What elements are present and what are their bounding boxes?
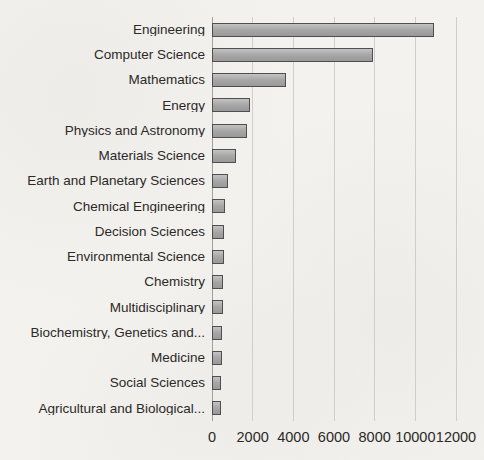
chart-row: Energy: [0, 93, 484, 118]
bar: [212, 73, 286, 87]
x-tick-label: 0: [208, 430, 216, 445]
bar-track: [212, 295, 456, 320]
bar-track: [212, 68, 456, 93]
bar: [212, 225, 224, 239]
bar: [212, 199, 225, 213]
bar-track: [212, 270, 456, 295]
chart-row: Environmental Science: [0, 244, 484, 269]
category-label: Mathematics: [0, 73, 212, 87]
bar-track: [212, 118, 456, 143]
chart-row: Materials Science: [0, 143, 484, 168]
category-label: Earth and Planetary Sciences: [0, 174, 212, 188]
bar-track: [212, 219, 456, 244]
x-tick-label: 12000: [436, 430, 476, 445]
x-tick-label: 10000: [395, 430, 435, 445]
bar-track: [212, 194, 456, 219]
category-label: Engineering: [0, 23, 212, 37]
bar: [212, 48, 373, 62]
bar-track: [212, 169, 456, 194]
chart-row: Social Sciences: [0, 371, 484, 396]
category-label: Energy: [0, 99, 212, 113]
chart-row: Multidisciplinary: [0, 295, 484, 320]
chart-row: Decision Sciences: [0, 219, 484, 244]
chart-row: Earth and Planetary Sciences: [0, 169, 484, 194]
bar: [212, 376, 221, 390]
category-label: Medicine: [0, 351, 212, 365]
chart-row: Engineering: [0, 17, 484, 42]
category-label: Decision Sciences: [0, 225, 212, 239]
bar-chart: EngineeringComputer ScienceMathematicsEn…: [0, 0, 484, 460]
x-axis: 020004000600080001000012000: [212, 430, 456, 450]
bar: [212, 401, 221, 415]
chart-row: Physics and Astronomy: [0, 118, 484, 143]
chart-row: Agricultural and Biological...: [0, 396, 484, 421]
category-label: Social Sciences: [0, 376, 212, 390]
x-tick-label: 2000: [237, 430, 269, 445]
category-label: Agricultural and Biological...: [0, 402, 212, 416]
bar: [212, 124, 247, 138]
bar-track: [212, 371, 456, 396]
bar-track: [212, 320, 456, 345]
bar-track: [212, 244, 456, 269]
category-label: Chemical Engineering: [0, 200, 212, 214]
chart-row: Biochemistry, Genetics and...: [0, 320, 484, 345]
bar: [212, 174, 228, 188]
bar-track: [212, 396, 456, 421]
chart-row: Chemistry: [0, 270, 484, 295]
chart-row: Mathematics: [0, 68, 484, 93]
category-label: Computer Science: [0, 48, 212, 62]
bar-track: [212, 17, 456, 42]
x-tick-label: 6000: [318, 430, 350, 445]
category-label: Multidisciplinary: [0, 301, 212, 315]
category-label: Physics and Astronomy: [0, 124, 212, 138]
bar: [212, 351, 222, 365]
x-tick-label: 8000: [359, 430, 391, 445]
chart-rows: EngineeringComputer ScienceMathematicsEn…: [0, 17, 484, 421]
bar-track: [212, 143, 456, 168]
bar: [212, 300, 223, 314]
chart-row: Medicine: [0, 345, 484, 370]
bar-track: [212, 42, 456, 67]
bar: [212, 98, 250, 112]
category-label: Biochemistry, Genetics and...: [0, 326, 212, 340]
x-tick-label: 4000: [277, 430, 309, 445]
bar: [212, 23, 434, 37]
category-label: Materials Science: [0, 149, 212, 163]
bar: [212, 275, 223, 289]
category-label: Environmental Science: [0, 250, 212, 264]
bar-track: [212, 345, 456, 370]
chart-row: Chemical Engineering: [0, 194, 484, 219]
bar: [212, 250, 224, 264]
chart-row: Computer Science: [0, 42, 484, 67]
bar: [212, 326, 222, 340]
bar-track: [212, 93, 456, 118]
category-label: Chemistry: [0, 275, 212, 289]
bar: [212, 149, 236, 163]
